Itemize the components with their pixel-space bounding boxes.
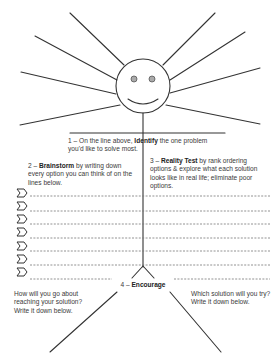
ray <box>20 105 120 125</box>
ray <box>21 72 116 94</box>
ray <box>163 13 215 65</box>
ray <box>166 105 260 124</box>
ray <box>170 32 245 80</box>
chevron-icon <box>17 215 27 223</box>
chevron-icon <box>17 268 27 276</box>
chevron-icon <box>17 202 27 210</box>
right-eye <box>149 76 155 82</box>
chevron-icon <box>17 189 27 197</box>
smile <box>128 99 158 104</box>
step2-text: 2 – Brainstorm by writing down every opt… <box>28 162 134 187</box>
chevron-icon <box>17 242 27 250</box>
left-prompt: How will you go about reaching your solu… <box>14 290 94 315</box>
step1-text: 1 – On the line above, Identify the one … <box>68 137 223 154</box>
left-eye <box>131 76 137 82</box>
ray <box>70 13 124 65</box>
step3-text: 3 – Reality Test by rank ordering option… <box>150 157 262 191</box>
face-circle <box>116 59 170 113</box>
right-prompt: Which solution will you try? Write it do… <box>191 290 273 307</box>
step4-text: 4 – Encourage <box>112 281 174 289</box>
ray <box>35 36 117 80</box>
chevron-icon <box>17 255 27 263</box>
chevron-icon <box>17 228 27 236</box>
